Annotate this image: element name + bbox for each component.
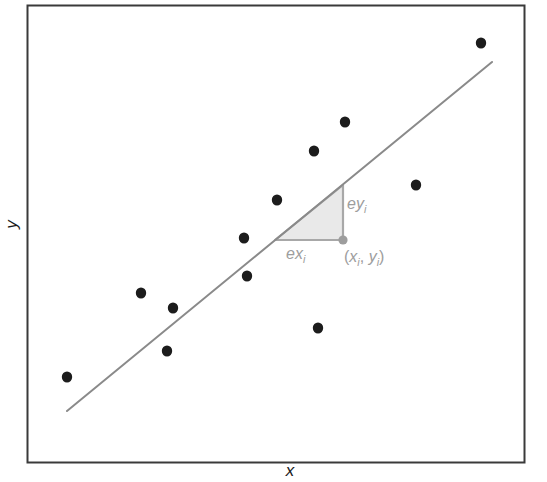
data-point [411,179,421,190]
x-axis-label: x [270,462,310,479]
error-x-subscript: i [303,253,305,265]
data-point [340,116,350,127]
figure-canvas: eyi exi (xi, yi) x y [0,0,547,482]
error-y-text: ey [347,195,364,212]
data-point [239,232,249,243]
data-point [162,345,172,356]
data-point [242,270,252,281]
coord-separator: , [360,248,369,265]
data-point [136,287,146,298]
error-x-text: ex [286,245,303,262]
plot-frame [28,6,525,463]
data-point [168,302,178,313]
data-point [313,322,323,333]
data-point [309,145,319,156]
data-point [62,371,72,382]
error-x-label: exi [286,246,305,265]
paren-close: ) [379,248,384,265]
y-axis-label: y [3,210,20,240]
data-point [272,194,282,205]
point-coordinate-label: (xi, yi) [344,249,384,268]
coord-y: y [369,248,377,265]
error-y-label: eyi [347,196,366,215]
plot-svg [0,0,547,482]
highlighted-point-marker [338,235,347,244]
error-y-subscript: i [364,203,366,215]
data-point [476,37,486,48]
